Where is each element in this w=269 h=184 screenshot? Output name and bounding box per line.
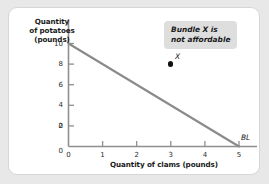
x-axis-title: Quantity of clams (pounds) xyxy=(79,160,249,169)
x-tick-label-3: 3 xyxy=(164,151,178,159)
y-tick-label-2: 2 xyxy=(47,122,63,130)
y-tick-label-4: 4 xyxy=(47,101,63,109)
x-tick-label-1: 1 xyxy=(96,151,110,159)
y-tick-marks xyxy=(69,44,75,126)
budget-line-bl xyxy=(69,44,240,147)
y-tick-label-6: 6 xyxy=(47,81,63,89)
y-tick-label-10: 10 xyxy=(47,40,63,48)
x-tick-label-0: 0 xyxy=(62,151,76,159)
x-tick-label-4: 4 xyxy=(198,151,212,159)
series-label-bl: BL xyxy=(241,133,250,142)
x-tick-label-5: 5 xyxy=(232,151,246,159)
figure-card: Quantity of potatoes (pounds) Quantity o… xyxy=(8,7,260,175)
x-tick-label-2: 2 xyxy=(130,151,144,159)
y-tick-label-8: 8 xyxy=(47,60,63,68)
annotation-bundle-x-not-affordable: Bundle X is not affordable xyxy=(164,21,237,49)
data-point-x-label: X xyxy=(175,52,180,61)
x-tick-marks xyxy=(103,141,239,147)
